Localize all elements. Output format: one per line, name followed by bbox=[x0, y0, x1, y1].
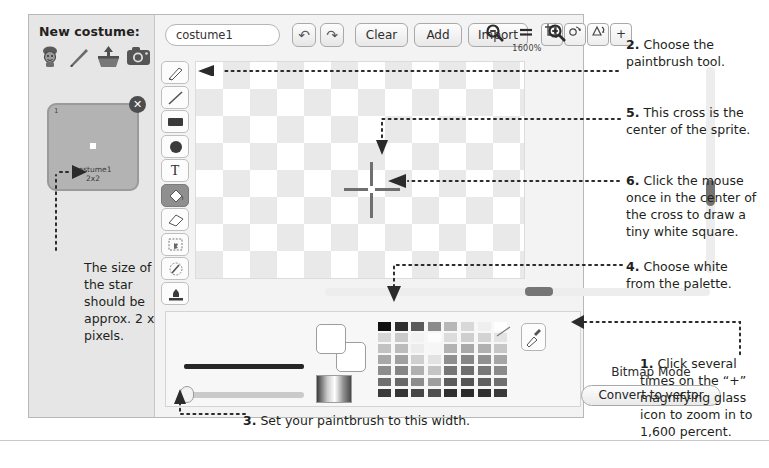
annotation-step-5-number: 5. bbox=[626, 105, 639, 120]
tool-eraser[interactable] bbox=[161, 208, 189, 231]
color-palette[interactable] bbox=[378, 322, 511, 400]
no-color-swatch[interactable] bbox=[496, 322, 511, 333]
redo-button[interactable]: ↷ bbox=[320, 23, 344, 47]
color-swatch[interactable] bbox=[428, 355, 441, 364]
color-swatch[interactable] bbox=[494, 355, 507, 364]
canvas-vertical-scrollbar-track[interactable] bbox=[706, 67, 715, 273]
annotation-step-5: 5. This cross is the center of the sprit… bbox=[626, 104, 761, 138]
annotation-step-4-text: Choose white from the palette. bbox=[626, 259, 732, 291]
tool-text[interactable]: T bbox=[161, 159, 189, 182]
annotation-step-4: 4. Choose white from the palette. bbox=[626, 258, 756, 292]
color-swatch[interactable] bbox=[478, 366, 491, 375]
color-swatch[interactable] bbox=[395, 322, 408, 331]
color-swatch[interactable] bbox=[444, 322, 457, 331]
color-swatch[interactable] bbox=[428, 344, 441, 353]
color-swatch[interactable] bbox=[444, 378, 457, 387]
color-swatch[interactable] bbox=[461, 344, 474, 353]
tool-stamp[interactable] bbox=[161, 282, 189, 305]
color-swatch[interactable] bbox=[395, 378, 408, 387]
new-costume-label: New costume: bbox=[39, 24, 140, 39]
annotation-step-2-number: 2. bbox=[626, 37, 639, 52]
transparency-checkerboard bbox=[196, 62, 524, 278]
costume-library-icon[interactable] bbox=[38, 45, 62, 73]
zoom-out-icon[interactable] bbox=[485, 23, 505, 43]
undo-button[interactable]: ↶ bbox=[292, 23, 316, 47]
color-swatch[interactable] bbox=[378, 378, 391, 387]
color-swatch[interactable] bbox=[378, 355, 391, 364]
color-swatch[interactable] bbox=[478, 333, 491, 342]
color-swatch[interactable] bbox=[411, 366, 424, 375]
new-costume-icons bbox=[38, 45, 148, 71]
color-swatch[interactable] bbox=[478, 355, 491, 364]
color-swatch[interactable] bbox=[395, 355, 408, 364]
color-swatch[interactable] bbox=[444, 333, 457, 342]
color-swatch[interactable] bbox=[378, 344, 391, 353]
eyedropper-icon[interactable] bbox=[521, 323, 546, 351]
delete-costume-icon[interactable]: ✕ bbox=[129, 96, 146, 113]
tool-ellipse[interactable] bbox=[161, 135, 189, 158]
color-swatch[interactable] bbox=[461, 366, 474, 375]
clear-button[interactable]: Clear bbox=[355, 23, 408, 47]
costume-name-input[interactable]: costume1 bbox=[165, 24, 280, 46]
color-swatch[interactable] bbox=[461, 389, 474, 398]
upload-costume-icon[interactable] bbox=[96, 45, 121, 73]
color-swatch[interactable] bbox=[378, 389, 391, 398]
foreground-color-swatch[interactable] bbox=[316, 324, 346, 354]
annotation-step-1: 1. Click several times on the “+” magnif… bbox=[640, 355, 760, 440]
color-swatch[interactable] bbox=[478, 389, 491, 398]
color-swatch[interactable] bbox=[461, 333, 474, 342]
color-swatch[interactable] bbox=[411, 333, 424, 342]
zoom-in-icon[interactable] bbox=[547, 23, 567, 43]
color-swatch[interactable] bbox=[444, 389, 457, 398]
tool-fill[interactable] bbox=[161, 184, 189, 207]
color-swatch[interactable] bbox=[478, 322, 491, 331]
color-swatch[interactable] bbox=[395, 366, 408, 375]
color-swatch[interactable] bbox=[395, 389, 408, 398]
color-swatch[interactable] bbox=[478, 378, 491, 387]
color-swatch[interactable] bbox=[411, 378, 424, 387]
tool-paintbrush[interactable] bbox=[161, 61, 189, 84]
color-swatch[interactable] bbox=[378, 333, 391, 342]
color-swatch[interactable] bbox=[428, 366, 441, 375]
annotation-step-6-number: 6. bbox=[626, 173, 639, 188]
tool-line[interactable] bbox=[161, 86, 189, 109]
tool-magic-wand[interactable] bbox=[161, 257, 189, 280]
color-swatch[interactable] bbox=[478, 344, 491, 353]
leader-line-step-4 bbox=[382, 264, 624, 306]
zoom-reset-icon[interactable] bbox=[516, 23, 536, 43]
color-swatch[interactable] bbox=[378, 322, 391, 331]
color-swatch[interactable] bbox=[494, 366, 507, 375]
color-swatch[interactable] bbox=[461, 355, 474, 364]
color-swatch[interactable] bbox=[395, 333, 408, 342]
color-swatch[interactable] bbox=[411, 355, 424, 364]
annotation-step-6-text: Click the mouse once in the center of th… bbox=[626, 173, 756, 239]
camera-costume-icon[interactable] bbox=[126, 45, 151, 71]
color-swatch[interactable] bbox=[444, 355, 457, 364]
color-swatch[interactable] bbox=[395, 344, 408, 353]
color-swatch[interactable] bbox=[461, 322, 474, 331]
color-swatch[interactable] bbox=[494, 344, 507, 353]
color-swatch[interactable] bbox=[378, 366, 391, 375]
tool-select[interactable] bbox=[161, 233, 189, 256]
tool-rectangle[interactable] bbox=[161, 110, 189, 133]
drawing-canvas[interactable] bbox=[195, 61, 525, 279]
color-swatch[interactable] bbox=[411, 322, 424, 331]
color-swatch[interactable] bbox=[494, 378, 507, 387]
color-swatch[interactable] bbox=[461, 378, 474, 387]
color-swatch[interactable] bbox=[411, 344, 424, 353]
color-swatch[interactable] bbox=[494, 389, 507, 398]
annotation-step-2-text: Choose the paintbrush tool. bbox=[626, 37, 725, 69]
color-swatch[interactable] bbox=[428, 389, 441, 398]
color-swatch[interactable] bbox=[411, 389, 424, 398]
flip-vertical-icon[interactable] bbox=[587, 23, 609, 46]
paint-costume-icon[interactable] bbox=[67, 45, 91, 73]
zoom-level-label: 1600% bbox=[485, 44, 569, 53]
add-button[interactable]: Add bbox=[414, 23, 462, 47]
color-swatch[interactable] bbox=[428, 322, 441, 331]
color-swatch[interactable] bbox=[428, 333, 441, 342]
color-swatch[interactable] bbox=[444, 344, 457, 353]
gradient-swatch[interactable] bbox=[316, 375, 352, 403]
costume-preview-dot bbox=[90, 143, 96, 149]
color-swatch[interactable] bbox=[428, 378, 441, 387]
color-swatch[interactable] bbox=[444, 366, 457, 375]
